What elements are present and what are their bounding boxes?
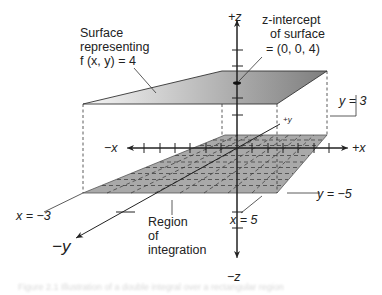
region-label-line3: integration	[148, 243, 206, 257]
axis-label-minus-x: −x	[104, 141, 118, 155]
surface-label-line1: Surface	[80, 26, 123, 40]
surface-label-line3: f (x, y) = 4	[80, 54, 136, 68]
y-equals-3-label: y = 3	[338, 94, 366, 108]
diagram-canvas: Surface representing f (x, y) = 4 z-inte…	[0, 0, 382, 295]
axis-label-plus-x: +x	[352, 141, 366, 155]
figure-caption: Figure 2.1 Illustration of a double inte…	[18, 282, 284, 292]
region-label-line2: of	[148, 229, 159, 243]
double-integral-diagram: Surface representing f (x, y) = 4 z-inte…	[0, 0, 382, 295]
surface-f-equals-4	[83, 71, 327, 104]
x-equals-neg3-label: x = −3	[15, 209, 51, 223]
z-intercept-point	[233, 81, 241, 85]
x-equals-5-label: x = 5	[229, 213, 257, 227]
axis-label-plus-y: +y	[283, 115, 293, 124]
region-of-integration	[83, 135, 327, 193]
axis-label-minus-y: −y	[52, 237, 72, 256]
y-equals-neg5-label: y = −5	[316, 187, 352, 201]
intercept-label-line2: of surface	[270, 27, 325, 41]
region-label-line1: Region	[148, 215, 188, 229]
intercept-label-line3: = (0, 0, 4)	[266, 42, 320, 56]
axis-label-plus-z: +z	[228, 10, 242, 24]
surface-label-line2: representing	[80, 40, 150, 54]
intercept-label-line1: z-intercept	[262, 13, 321, 27]
